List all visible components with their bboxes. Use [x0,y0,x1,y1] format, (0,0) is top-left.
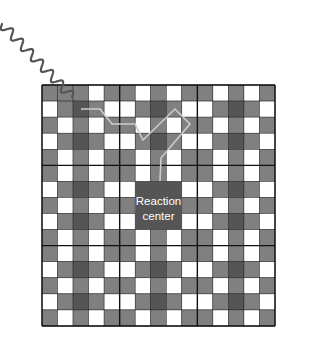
pigment-cell [120,262,136,278]
pigment-cell [197,214,213,230]
pigment-cell [197,133,213,149]
pigment-cell [120,85,136,101]
pigment-cell [244,294,260,310]
pigment-cell [213,230,229,246]
pigment-cell [151,149,167,165]
pigment-cell [135,278,151,294]
pigment-cell [228,85,244,101]
pigment-cell [228,246,244,262]
pigment-cell [182,101,198,117]
pigment-cell [120,246,136,262]
pigment-cell [120,214,136,230]
pigment-cell [244,149,260,165]
pigment-cell [244,101,260,117]
pigment-cell [166,246,182,262]
pigment-cell [58,246,74,262]
pigment-cell [135,85,151,101]
pigment-cell [166,310,182,326]
pigment-cell [213,101,229,117]
pigment-cell [104,294,120,310]
pigment-cell [213,85,229,101]
pigment-cell [58,165,74,181]
reaction-center-label-line1: Reaction [136,194,181,209]
pigment-cell [42,246,58,262]
pigment-cell [89,133,105,149]
pigment-cell [89,149,105,165]
pigment-cell [244,133,260,149]
pigment-cell [228,310,244,326]
pigment-cell [151,165,167,181]
pigment-cell [42,101,58,117]
pigment-cell [213,278,229,294]
pigment-cell [120,197,136,213]
pigment-cell [151,310,167,326]
pigment-cell [120,310,136,326]
pigment-cell [135,149,151,165]
pigment-cell [89,165,105,181]
pigment-cell [259,85,275,101]
pigment-cell [228,133,244,149]
pigment-cell [89,262,105,278]
reaction-center-label: Reaction center [135,185,182,233]
pigment-cell [89,197,105,213]
pigment-cell [213,294,229,310]
pigment-cell [58,149,74,165]
pigment-cell [151,246,167,262]
pigment-cell [166,278,182,294]
pigment-cell [197,246,213,262]
pigment-cell [58,101,74,117]
pigment-cell [228,230,244,246]
pigment-cell [197,85,213,101]
pigment-cell [73,262,89,278]
pigment-cell [135,294,151,310]
pigment-cell [42,133,58,149]
pigment-cell [120,278,136,294]
pigment-cell [104,246,120,262]
pigment-cell [182,133,198,149]
pigment-cell [182,310,198,326]
pigment-cell [135,165,151,181]
pigment-cell [104,165,120,181]
pigment-cell [182,165,198,181]
pigment-cell [259,117,275,133]
pigment-cell [151,262,167,278]
pigment-cell [73,117,89,133]
pigment-cell [120,181,136,197]
pigment-cell [182,214,198,230]
pigment-cell [228,101,244,117]
pigment-cell [182,197,198,213]
pigment-cell [104,117,120,133]
pigment-cell [259,294,275,310]
pigment-cell [259,165,275,181]
pigment-cell [151,294,167,310]
pigment-cell [42,181,58,197]
pigment-cell [73,197,89,213]
pigment-cell [120,165,136,181]
pigment-cell [58,117,74,133]
pigment-cell [73,149,89,165]
pigment-cell [213,133,229,149]
pigment-cell [244,310,260,326]
pigment-cell [104,101,120,117]
pigment-cell [228,262,244,278]
pigment-cell [104,85,120,101]
reaction-center-label-line2: center [143,209,175,224]
pigment-cell [73,85,89,101]
pigment-cell [104,262,120,278]
pigment-cell [73,230,89,246]
pigment-cell [228,294,244,310]
pigment-cell [182,278,198,294]
pigment-cell [182,181,198,197]
pigment-cell [120,149,136,165]
pigment-cell [73,133,89,149]
pigment-cell [42,117,58,133]
pigment-cell [228,117,244,133]
pigment-cell [151,101,167,117]
pigment-cell [244,278,260,294]
pigment-cell [58,294,74,310]
pigment-cell [259,181,275,197]
pigment-cell [135,246,151,262]
pigment-cell [197,149,213,165]
pigment-cell [197,165,213,181]
pigment-cell [135,310,151,326]
